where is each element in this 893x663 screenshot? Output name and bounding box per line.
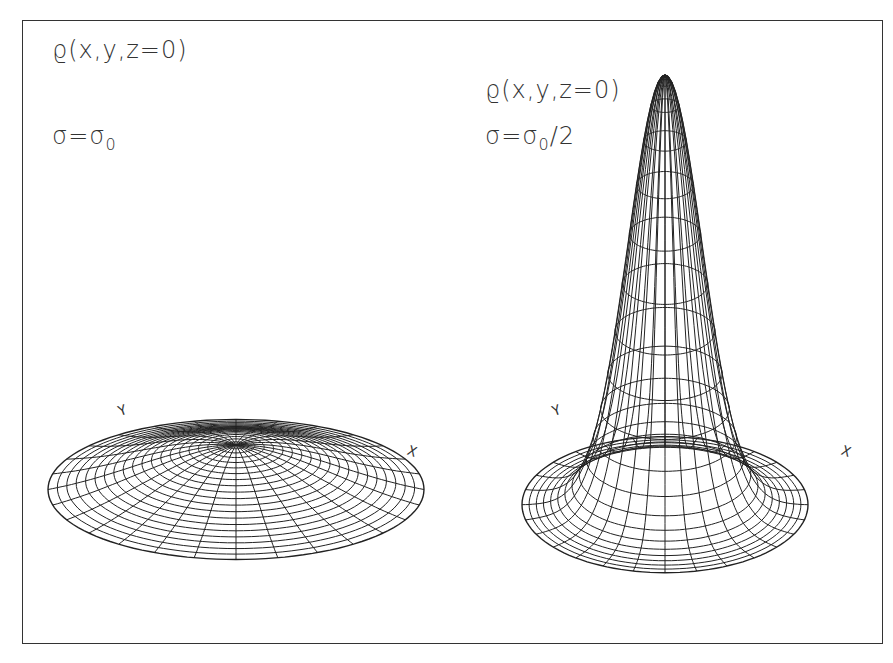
right-sigma-suffix: /2: [550, 122, 575, 150]
wireframe-line: [236, 445, 353, 544]
wireframe-line: [665, 75, 777, 547]
right-sigma-prefix: σ=σ: [485, 122, 539, 150]
left-sigma-label: σ=σ0: [52, 122, 117, 150]
wireframe-line: [576, 75, 665, 459]
wireframe-surfaces: [0, 0, 893, 663]
right-title: ϱ(x,y,z=0): [485, 76, 621, 104]
left-sigma-sub: 0: [106, 135, 117, 154]
wireframe-line: [665, 75, 794, 534]
left-title: ϱ(x,y,z=0): [52, 36, 188, 64]
right-sigma-label: σ=σ0/2: [485, 122, 575, 150]
wireframe-line: [665, 75, 804, 490]
wireframe-line: [665, 75, 727, 566]
left-sigma-prefix: σ=σ: [52, 122, 106, 150]
wireframe-line: [665, 75, 754, 459]
right-sigma-sub: 0: [539, 135, 550, 154]
wireframe-line: [603, 75, 665, 566]
wireframe-line: [119, 445, 236, 544]
